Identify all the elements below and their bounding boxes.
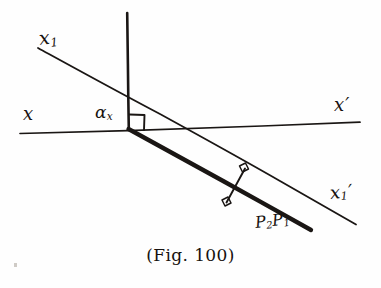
label-x: x xyxy=(23,105,33,123)
figure-container: x1 x x′ x1′ αx P2P1 (Fig. 100) xyxy=(0,0,381,288)
vertical-axis-line xyxy=(127,13,129,130)
label-x1-prime-subscript: 1 xyxy=(340,190,348,204)
label-p1-subscript: 1 xyxy=(283,217,291,229)
label-x1-prime: x1′ xyxy=(329,182,353,204)
figure-caption: (Fig. 100) xyxy=(0,247,381,264)
label-x1: x1 xyxy=(38,27,59,50)
horizontal-axis-line xyxy=(20,122,360,133)
label-x-prime-mark: ′ xyxy=(345,94,349,115)
inclined-axis-line xyxy=(38,48,356,225)
label-alpha-x: αx xyxy=(95,104,113,122)
right-angle-marker-origin xyxy=(130,115,145,131)
label-x-base: x xyxy=(23,103,33,124)
label-x1-base: x xyxy=(38,26,51,49)
label-alpha-base: α xyxy=(95,102,106,122)
label-x1-subscript: 1 xyxy=(50,34,59,49)
paper-speck xyxy=(14,263,17,267)
label-x-prime: x′ xyxy=(334,96,349,114)
label-x-prime-base: x xyxy=(334,94,344,115)
label-alpha-subscript: x xyxy=(107,110,113,122)
right-angle-marker-upper xyxy=(240,163,249,172)
label-p2-base: P xyxy=(254,212,267,232)
